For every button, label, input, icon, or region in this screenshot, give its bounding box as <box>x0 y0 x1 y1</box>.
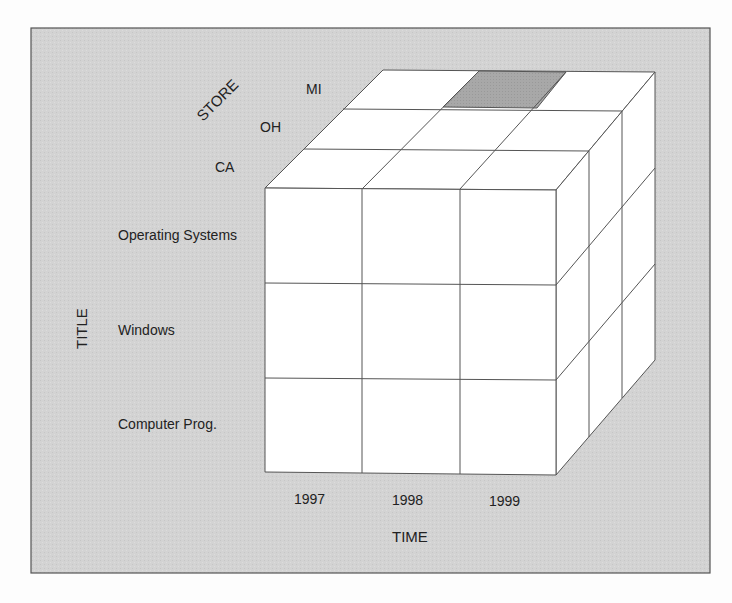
title-member-computer-prog: Computer Prog. <box>118 416 217 432</box>
time-member-1999: 1999 <box>489 493 520 509</box>
time-member-1998: 1998 <box>392 492 423 508</box>
cube-front-face <box>265 188 556 475</box>
data-cube-diagram: STORE MI OH CA TITLE Operating Systems W… <box>0 0 732 603</box>
title-axis-label: TITLE <box>73 308 90 349</box>
store-member-CA: CA <box>215 159 235 175</box>
title-member-windows: Windows <box>118 322 175 338</box>
title-member-operating-systems: Operating Systems <box>118 227 237 243</box>
time-member-1997: 1997 <box>294 491 325 507</box>
time-axis-label: TIME <box>392 528 428 545</box>
store-member-OH: OH <box>260 119 281 135</box>
store-member-MI: MI <box>306 81 322 97</box>
data-cube <box>265 70 655 475</box>
